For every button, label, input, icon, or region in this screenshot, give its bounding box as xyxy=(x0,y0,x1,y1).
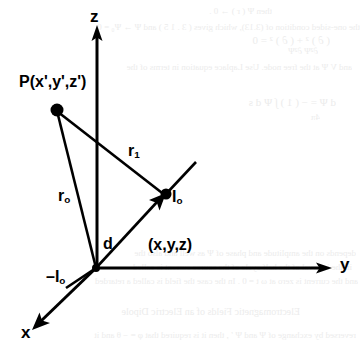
origin-coordinates-label: (x,y,z) xyxy=(148,236,192,254)
physics-figure: then Ψ ( r ) → 0 .the one-sided conditio… xyxy=(0,0,364,354)
y-axis-label: y xyxy=(340,255,349,275)
r-zero-label: ro xyxy=(58,187,70,205)
z-axis-label: z xyxy=(90,7,99,27)
r-zero-subscript: o xyxy=(64,194,70,205)
coordinate-system-diagram xyxy=(0,0,364,354)
current-element-subscript: o xyxy=(176,195,182,206)
minus-i-leader-line xyxy=(66,268,96,288)
origin-marker xyxy=(92,264,100,272)
d-vector xyxy=(96,193,166,268)
image-current-label: –Io xyxy=(46,268,65,286)
r-one-label: r1 xyxy=(128,142,140,160)
point-i-marker xyxy=(161,189,172,200)
point-p-label: P(x',y',z') xyxy=(19,73,86,91)
current-element-label: Io xyxy=(172,188,183,206)
point-p-marker xyxy=(51,104,64,117)
d-label: d xyxy=(103,235,113,253)
image-current-subscript: o xyxy=(59,275,65,286)
y-axis xyxy=(96,263,332,274)
r-one-subscript: 1 xyxy=(134,149,140,160)
image-current-symbol: –I xyxy=(46,268,59,285)
x-axis-label: x xyxy=(21,323,30,343)
